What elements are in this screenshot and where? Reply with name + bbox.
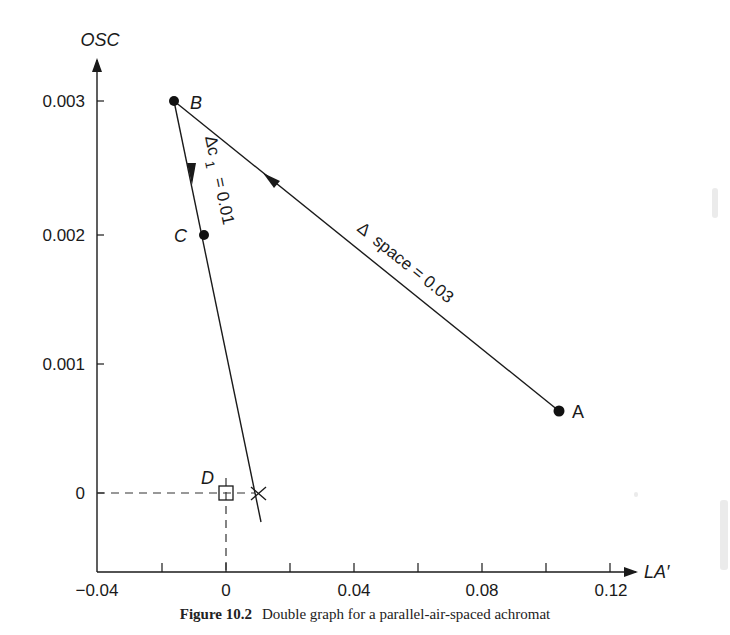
scan-smudge xyxy=(634,492,638,497)
y-axis: 0.003 0.002 0.001 0 OSC xyxy=(42,30,120,572)
y-tick-label: 0 xyxy=(76,484,85,503)
label-b: B xyxy=(190,93,202,113)
label-a: A xyxy=(572,402,584,422)
x-tick-label: −0.04 xyxy=(75,581,118,600)
direction-arrow-icon xyxy=(187,163,196,185)
figure-caption: Figure 10.2Double graph for a parallel-a… xyxy=(0,606,730,623)
y-tick-label: 0.003 xyxy=(42,92,85,111)
figure: 0.003 0.002 0.001 0 OSC −0.04 0 0.04 0.0… xyxy=(0,0,730,635)
x-tick-label: 0.12 xyxy=(594,581,627,600)
svg-text:Δ space = 0.03: Δ space = 0.03 xyxy=(353,218,457,307)
guide-lines xyxy=(97,478,255,572)
annotation-space: Δ space = 0.03 xyxy=(353,218,457,307)
x-axis-title: LA′ xyxy=(644,562,670,582)
subscript-1: 1 xyxy=(202,160,218,170)
data-points xyxy=(169,96,565,500)
y-tick-label: 0.001 xyxy=(42,355,85,374)
scan-smudge xyxy=(720,500,728,570)
x-axis: −0.04 0 0.04 0.08 0.12 LA′ xyxy=(75,562,670,600)
delta-symbol: Δ xyxy=(353,218,373,240)
chart-canvas: 0.003 0.002 0.001 0 OSC −0.04 0 0.04 0.0… xyxy=(0,0,730,635)
point-b xyxy=(169,96,179,106)
line-a-to-b xyxy=(174,101,559,411)
label-d: D xyxy=(201,468,214,488)
label-c: C xyxy=(174,226,188,246)
y-axis-title: OSC xyxy=(80,30,120,50)
point-a xyxy=(554,406,565,417)
direction-arrow-icon xyxy=(263,173,280,188)
x-tick-label: 0.04 xyxy=(337,581,370,600)
caption-text: Double graph for a parallel-air-spaced a… xyxy=(262,606,550,622)
scan-smudge xyxy=(712,188,718,218)
x-tick-label: 0 xyxy=(221,581,230,600)
delta-c-symbol: Δc xyxy=(201,134,224,158)
x-tick-label: 0.08 xyxy=(465,581,498,600)
y-tick-label: 0.002 xyxy=(42,226,85,245)
point-c xyxy=(199,230,209,240)
caption-number: Figure 10.2 xyxy=(180,606,252,622)
point-labels: B A C D xyxy=(174,93,584,488)
annotation-c1-value: = 0.01 xyxy=(210,176,238,227)
